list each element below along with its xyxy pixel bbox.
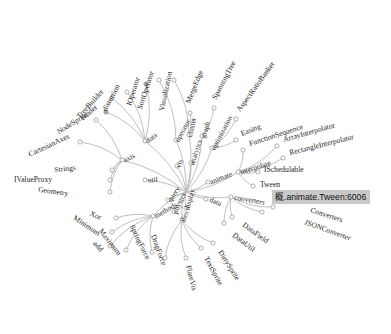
radial-dendrogram-canvas[interactable]: operatorvisdataaxisclustergraphanalytics… — [0, 0, 391, 334]
tree-leaf-node[interactable] — [110, 230, 114, 234]
node-label: graph — [198, 120, 212, 139]
tree-leaf-node[interactable] — [260, 210, 264, 214]
tree-leaf-node[interactable] — [251, 184, 255, 188]
node-label: animate — [208, 169, 234, 186]
node-tooltip: 概.animate.Tween:6006 — [272, 190, 370, 204]
tree-leaf-node[interactable] — [114, 216, 118, 220]
tree-link — [230, 197, 232, 217]
tree-svg: operatorvisdataaxisclustergraphanalytics… — [0, 0, 391, 334]
tree-link — [116, 214, 153, 218]
tree-link — [106, 112, 145, 141]
tree-leaf-node[interactable] — [199, 246, 203, 250]
node-label: AspectRatioBanker — [234, 59, 277, 113]
tree-node-data_r[interactable] — [204, 197, 208, 201]
tree-leaf-node[interactable] — [157, 78, 161, 82]
node-label: add — [91, 239, 105, 253]
tree-link — [96, 120, 122, 160]
node-label: axis — [122, 151, 137, 164]
node-label: NodeSprite — [55, 110, 90, 136]
tree-leaf-node[interactable] — [108, 190, 112, 194]
node-label: SpringForce — [128, 223, 153, 261]
tree-link — [182, 220, 201, 248]
node-label: CartesianAxes — [27, 132, 71, 159]
node-label: JSONConverter — [303, 217, 352, 242]
node-label: Geometry — [38, 185, 70, 198]
node-label: Xor — [88, 209, 103, 222]
node-label: MergeEdge — [184, 68, 206, 105]
node-label: distortion — [100, 83, 122, 113]
tree-leaf-node[interactable] — [110, 168, 114, 172]
node-label: FlareVis — [184, 264, 199, 291]
node-label: IValueProxy — [14, 175, 52, 184]
node-label: Visualization — [157, 70, 174, 111]
tree-leaf-node[interactable] — [281, 156, 285, 160]
node-label: SpanningTree — [210, 59, 238, 101]
node-label: Tween — [260, 180, 280, 189]
tree-leaf-node[interactable] — [94, 118, 98, 122]
tree-leaf-node[interactable] — [212, 106, 216, 110]
tree-leaf-node[interactable] — [124, 248, 128, 252]
tree-leaf-node[interactable] — [222, 221, 226, 225]
tree-leaf-node[interactable] — [241, 148, 245, 152]
node-label: optimization — [209, 114, 235, 151]
tree-leaf-node[interactable] — [108, 178, 112, 182]
tree-link — [165, 220, 182, 258]
tree-leaf-node[interactable] — [234, 138, 238, 142]
tree-link — [181, 220, 186, 258]
node-label: Strings — [54, 163, 76, 174]
node-label: util — [148, 175, 158, 185]
tree-leaf-node[interactable] — [234, 117, 238, 121]
tree-node-converters[interactable] — [229, 195, 233, 199]
tree-leaf-node[interactable] — [275, 144, 279, 148]
tree-leaf-node[interactable] — [230, 215, 234, 219]
node-label: data — [208, 195, 223, 208]
node-label: ISchedulable — [264, 165, 304, 174]
tree-leaf-node[interactable] — [271, 205, 275, 209]
tree-leaf-node[interactable] — [78, 140, 82, 144]
tree-node-util[interactable] — [143, 178, 147, 182]
tree-leaf-node[interactable] — [184, 256, 188, 260]
tree-leaf-node[interactable] — [188, 111, 192, 115]
tree-leaf-node[interactable] — [211, 241, 215, 245]
